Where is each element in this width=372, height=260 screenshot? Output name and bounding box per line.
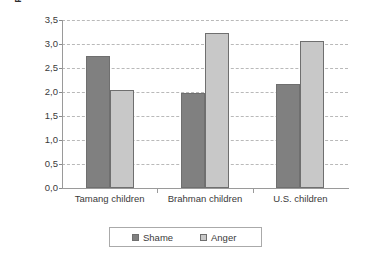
- x-axis-category-labels: Tamang childrenBrahman childrenU.S. chil…: [62, 193, 348, 209]
- x-axis-category-label: U.S. children: [253, 193, 348, 205]
- bar-group: [86, 20, 134, 188]
- legend-item-shame: Shame: [132, 232, 173, 244]
- bar-group: [181, 20, 229, 188]
- bar-group: [276, 20, 324, 188]
- x-axis-line: [62, 188, 349, 189]
- legend-label-anger: Anger: [211, 232, 236, 243]
- legend-item-anger: Anger: [200, 232, 236, 244]
- x-axis-category-label: Tamang children: [62, 193, 157, 205]
- y-axis-line: [62, 20, 63, 189]
- bar-shame-brahman-children: [181, 93, 205, 188]
- y-axis-tick-label: 0,5: [32, 159, 58, 169]
- plot-area: [62, 20, 348, 188]
- bar-chart-figure: Frequency of experience 0,00,51,01,52,02…: [0, 0, 372, 260]
- y-axis-tick-label: 3,0: [32, 39, 58, 49]
- x-axis-category-label: Brahman children: [157, 193, 252, 205]
- y-axis-tick-label: 3,5: [32, 15, 58, 25]
- y-axis-tick-label: 2,5: [32, 63, 58, 73]
- legend-swatch-anger: [200, 234, 207, 241]
- bar-shame-tamang-children: [86, 56, 110, 188]
- chart-legend: Shame Anger: [109, 227, 262, 247]
- bar-anger-u-s-children: [300, 41, 324, 188]
- y-axis-title: Frequency of experience: [10, 0, 26, 34]
- y-axis-tick-label: 0,0: [32, 183, 58, 193]
- y-axis-tick-label: 1,5: [32, 111, 58, 121]
- y-axis-tick-labels: 0,00,51,01,52,02,53,03,5: [28, 20, 58, 190]
- y-axis-tick-label: 2,0: [32, 87, 58, 97]
- bar-anger-tamang-children: [110, 90, 134, 188]
- bar-anger-brahman-children: [205, 33, 229, 188]
- legend-label-shame: Shame: [143, 232, 173, 243]
- y-axis-tick-label: 1,0: [32, 135, 58, 145]
- bar-shame-u-s-children: [276, 84, 300, 188]
- legend-swatch-shame: [132, 234, 139, 241]
